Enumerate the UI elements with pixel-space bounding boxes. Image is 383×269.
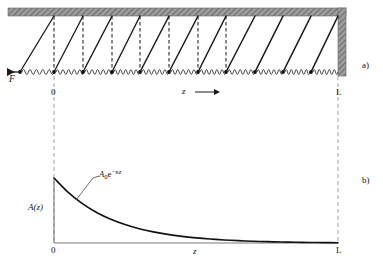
decay-curve-label-subscript: 0 — [104, 173, 107, 180]
pendulum-rod-2 — [54, 16, 83, 72]
panel-b-amplitude-plot — [54, 176, 338, 243]
panel-b-origin-label: 0 — [51, 246, 56, 255]
pendulum-rod-9 — [255, 16, 283, 72]
coupled-pendulum-figure — [0, 0, 383, 269]
pendulum-rod-6 — [169, 16, 198, 72]
force-label: F — [9, 75, 15, 85]
pendulum-bob — [52, 70, 56, 74]
ceiling-hatched-bar — [8, 8, 346, 16]
pendulum-bob — [138, 70, 142, 74]
pendulum-rod-11 — [311, 16, 338, 72]
pendulum-rod-7 — [198, 16, 226, 72]
pendulum-bob — [281, 70, 285, 74]
pendulum-rods — [20, 16, 338, 72]
pendulum-rod-10 — [283, 16, 311, 72]
panel-a-end-label: L — [336, 88, 342, 97]
decay-curve-label: A0e−κz — [99, 170, 121, 179]
spring-chain — [22, 70, 338, 75]
decay-curve-label-exponent: −κz — [111, 168, 121, 175]
pendulum-bob — [196, 70, 200, 74]
pendulum-bob — [81, 70, 85, 74]
pendulum-rod-5 — [140, 16, 169, 72]
panel-a-origin-label: 0 — [51, 88, 56, 97]
annotation-leader-line — [76, 176, 99, 200]
pendulum-rod-8 — [226, 16, 255, 72]
pendulum-bob — [224, 70, 228, 74]
panel-b-ylabel: A(z) — [28, 203, 43, 212]
pendulum-bob — [110, 70, 114, 74]
panel-b-end-label: L — [336, 246, 342, 255]
pendulum-rod-3 — [83, 16, 112, 72]
right-wall-hatched-bar — [338, 8, 346, 76]
pendulum-bob — [253, 70, 257, 74]
pendulum-bob — [309, 70, 313, 74]
panel-b-xlabel: z — [193, 247, 197, 256]
pendulum-rod-1 — [20, 16, 54, 72]
decay-curve — [54, 178, 338, 243]
panel-a-tag: a) — [362, 61, 369, 70]
equilibrium-dashed-lines — [54, 16, 226, 74]
panel-b-tag: b) — [362, 176, 370, 185]
panel-a-pendulum-chain — [7, 8, 346, 92]
panel-a-axis-label: z — [182, 87, 188, 96]
pendulum-bob — [167, 70, 171, 74]
pendulum-rod-4 — [112, 16, 140, 72]
shared-reference-lines — [54, 76, 338, 243]
